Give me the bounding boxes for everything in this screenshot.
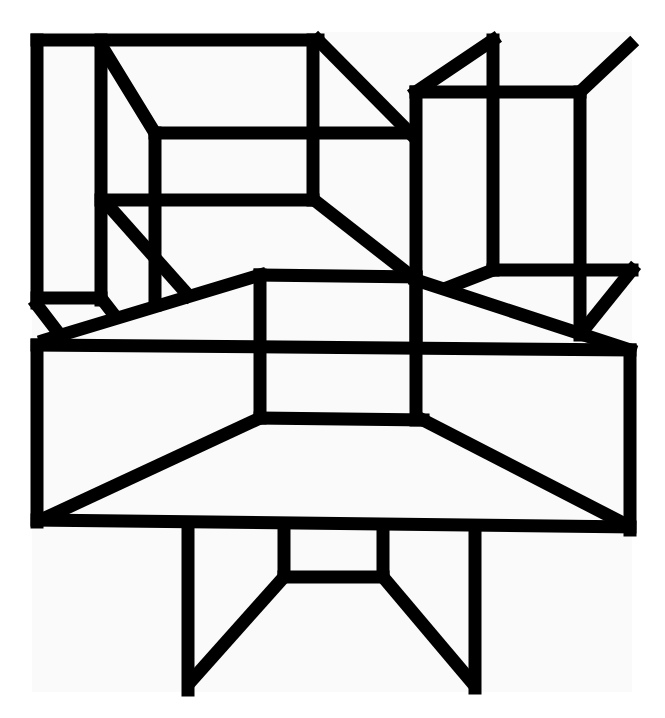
central-slab-bottom-edge [37,520,630,527]
central-slab-top-edge [37,345,630,350]
central-slab-trapezoid-top [260,418,423,420]
line-art-canvas [0,0,665,718]
center-box-top-edge [260,275,416,277]
